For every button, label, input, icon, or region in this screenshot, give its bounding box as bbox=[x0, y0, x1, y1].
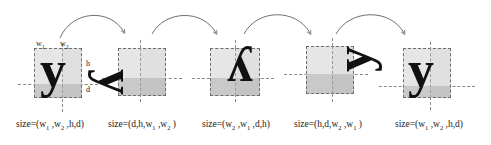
glyph-bounding-box-group: y bbox=[34, 48, 82, 98]
cap1-sub1: 1 bbox=[46, 124, 49, 131]
label-w1: w1 bbox=[36, 40, 45, 48]
caption-stage-1: size=(w1 ,w2 ,h,d) bbox=[0, 120, 100, 130]
caption-stage-4: size=(h,d,w2 ,w1 ) bbox=[278, 120, 378, 130]
label-w2-subscript: 2 bbox=[66, 44, 69, 50]
glyph-y: y bbox=[90, 69, 142, 95]
glyph-rotation-figure: y w1 w2 h d size=(w1 ,w2 ,h,d) y size=(d… bbox=[0, 0, 491, 145]
cap5-sub2: 2 bbox=[440, 124, 443, 131]
caption-stage-5: size=(w1 ,w2 ,h,d) bbox=[377, 120, 481, 130]
cap3-sub2: 1 bbox=[247, 124, 250, 131]
cap2-sub2: 2 bbox=[167, 124, 170, 131]
glyph-y: y bbox=[408, 44, 434, 96]
label-h: h bbox=[86, 60, 90, 68]
cap2-sub1: 1 bbox=[152, 124, 155, 131]
glyph-y: y bbox=[227, 48, 253, 100]
cap5-sub1: 1 bbox=[425, 124, 428, 131]
stage-1: y w1 w2 h d size=(w1 ,w2 ,h,d) bbox=[0, 0, 100, 145]
label-w1-subscript: 1 bbox=[42, 44, 45, 50]
glyph-bounding-box-group: y bbox=[210, 48, 260, 96]
cap4-sub1: 2 bbox=[338, 124, 341, 131]
glyph-bounding-box-group: y bbox=[118, 48, 166, 96]
glyph-bounding-box-group: y bbox=[403, 48, 451, 98]
glyph-y: y bbox=[328, 46, 380, 72]
glyph-bounding-box-group: y bbox=[306, 46, 354, 94]
stage-2: y size=(d,h,w1 ,w2 ) bbox=[96, 0, 188, 145]
cap4-sub2: 1 bbox=[353, 124, 356, 131]
stage-3: y size=(w2 ,w1 ,d,h) bbox=[186, 0, 282, 145]
caption-stage-3: size=(w2 ,w1 ,d,h) bbox=[186, 120, 286, 130]
stage-5: y size=(w1 ,w2 ,h,d) bbox=[375, 0, 491, 145]
label-w2: w2 bbox=[60, 40, 69, 48]
stage-4: y size=(h,d,w2 ,w1 ) bbox=[280, 0, 376, 145]
glyph-y: y bbox=[40, 44, 66, 96]
cap1-sub2: 2 bbox=[61, 124, 64, 131]
caption-stage-2: size=(d,h,w1 ,w2 ) bbox=[92, 120, 192, 130]
cap3-sub1: 2 bbox=[232, 124, 235, 131]
